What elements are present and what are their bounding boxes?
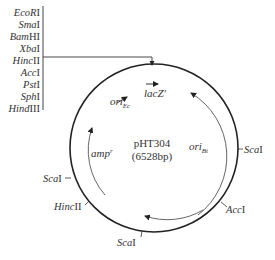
ori-ec-label: oriEc: [110, 95, 131, 110]
amp-label: ampr: [91, 147, 113, 159]
site-label-hincii: HincII: [53, 201, 82, 212]
mcs-site-list: EcoRI SmaI BamHI XbaI HincII AccI PstI S…: [8, 7, 41, 114]
mcs-site-acci: AccI: [20, 67, 41, 78]
site-ticks: [65, 149, 243, 237]
site-label-acci: AccI: [225, 204, 246, 215]
mcs-site-sphi: SphI: [21, 91, 41, 102]
mcs-site-hincii: HincII: [12, 55, 41, 66]
bottom-arc: [145, 210, 203, 220]
site-label-scai-right: ScaI: [244, 144, 263, 155]
lacz-label: lacZ′: [144, 87, 167, 99]
ori-bt-label: oriBt: [189, 140, 209, 155]
mcs-site-xbai: XbaI: [19, 43, 41, 54]
mcs-connector-line: [43, 57, 152, 64]
amp-arc: [88, 128, 105, 195]
plasmid-map: EcoRI SmaI BamHI XbaI HincII AccI PstI S…: [0, 0, 275, 260]
feature-labels: oriEc lacZ′ oriBt ampr pHT304 (6528bp): [91, 87, 209, 163]
ori-bt-arc: [191, 93, 227, 215]
mcs-site-psti: PstI: [22, 79, 40, 90]
plasmid-name: pHT304: [134, 137, 171, 149]
mcs-site-smai: SmaI: [18, 19, 40, 30]
site-label-scai-bottom: ScaI: [117, 237, 136, 248]
site-label-scai-left: ScaI: [43, 173, 62, 184]
mcs-site-bamhi: BamHI: [10, 31, 41, 42]
plasmid-size: (6528bp): [132, 150, 173, 163]
mcs-site-ecori: EcoRI: [13, 7, 41, 18]
mcs-site-hindiii: HindIII: [8, 103, 41, 114]
